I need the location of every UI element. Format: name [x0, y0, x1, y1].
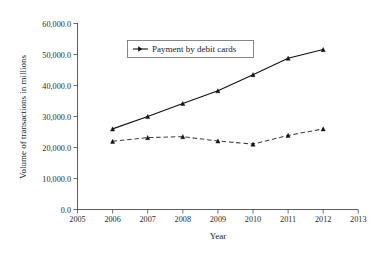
x-tick-label: 2012 [315, 215, 331, 224]
x-axis-ticks [78, 210, 359, 214]
x-tick-label: 2009 [210, 215, 226, 224]
data-point-marker [251, 73, 255, 77]
y-tick-label: 40,000.0 [42, 82, 71, 91]
legend-label: Payment by debit cards [152, 44, 237, 54]
chart-figure: 60,000.0 50,000.0 40,000.0 30,000.0 20,0… [0, 0, 387, 259]
series-markers-dashed [111, 127, 326, 146]
x-tick-label: 2007 [140, 215, 156, 224]
y-tick-label: 30,000.0 [42, 113, 71, 122]
x-tick-label: 2013 [350, 215, 366, 224]
x-axis-title: Year [210, 231, 227, 241]
data-point-marker [321, 127, 325, 131]
y-tick-label: 20,000.0 [42, 144, 71, 153]
y-tick-label: 50,000.0 [42, 51, 71, 60]
x-tick-label: 2011 [280, 215, 296, 224]
y-axis-ticks [74, 24, 78, 210]
legend: Payment by debit cards [128, 41, 254, 58]
x-tick-label: 2008 [175, 215, 191, 224]
line-chart: 60,000.0 50,000.0 40,000.0 30,000.0 20,0… [0, 0, 387, 259]
x-tick-label: 2005 [69, 215, 85, 224]
y-axis-title: Volume of transactions in millions [18, 55, 28, 179]
x-tick-label: 2010 [245, 215, 261, 224]
x-tick-label: 2006 [104, 215, 120, 224]
y-tick-label: 0.0 [61, 206, 71, 215]
y-tick-label: 60,000.0 [42, 20, 71, 29]
y-tick-label: 10,000.0 [42, 175, 71, 184]
